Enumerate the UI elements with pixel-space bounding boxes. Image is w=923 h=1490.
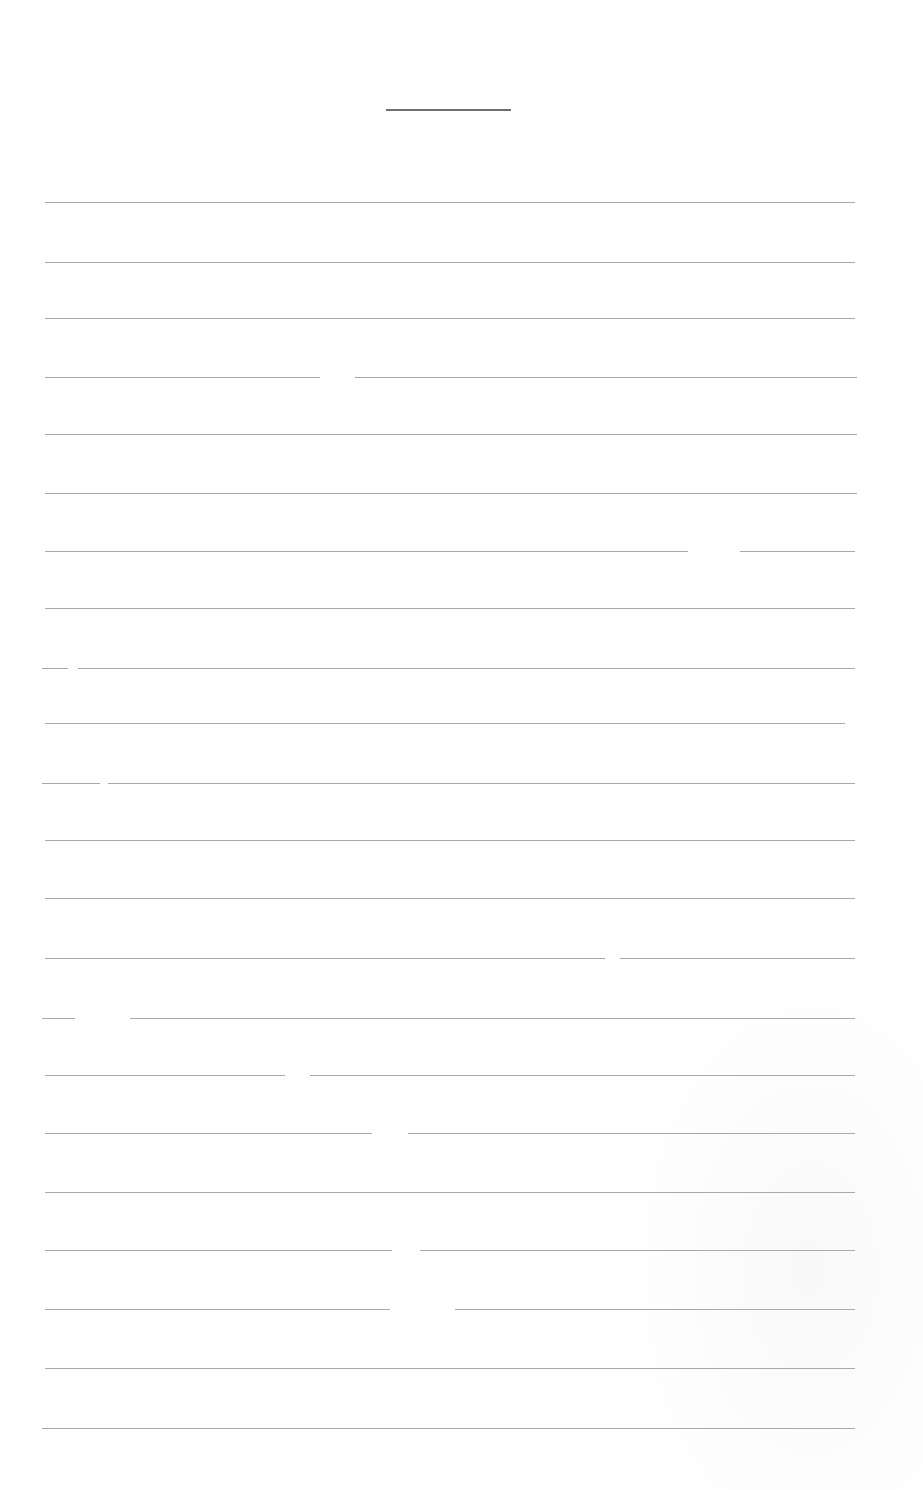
form-line-5-segment-1 [45, 434, 857, 435]
title-underline [386, 109, 511, 111]
form-line-19-segment-2 [420, 1250, 855, 1251]
form-line-6-segment-1 [45, 493, 857, 494]
form-line-4-segment-1 [45, 377, 320, 378]
form-line-15-segment-1 [42, 1018, 75, 1019]
form-line-7-segment-1 [45, 551, 688, 552]
form-line-19-segment-1 [45, 1250, 392, 1251]
lined-form-page [0, 0, 923, 1490]
faint-watermark [640, 1000, 923, 1490]
form-line-2-segment-1 [45, 262, 855, 263]
form-line-9-segment-2 [78, 668, 855, 669]
form-line-13-segment-1 [45, 898, 855, 899]
form-line-11-segment-2 [108, 783, 855, 784]
form-line-3-segment-1 [45, 318, 855, 319]
form-line-14-segment-1 [45, 958, 605, 959]
form-line-4-segment-2 [355, 377, 857, 378]
form-line-16-segment-2 [310, 1075, 855, 1076]
form-line-14-segment-2 [620, 958, 855, 959]
form-line-11-segment-1 [42, 783, 100, 784]
form-line-17-segment-2 [408, 1133, 855, 1134]
form-line-7-segment-2 [740, 551, 855, 552]
form-line-22-segment-1 [42, 1428, 855, 1429]
form-line-20-segment-2 [455, 1309, 855, 1310]
form-line-20-segment-1 [45, 1309, 390, 1310]
form-line-15-segment-2 [130, 1018, 855, 1019]
form-line-1-segment-1 [45, 202, 855, 203]
form-line-17-segment-1 [45, 1133, 372, 1134]
form-line-9-segment-1 [42, 668, 68, 669]
form-line-8-segment-1 [45, 608, 855, 609]
form-line-12-segment-1 [45, 840, 855, 841]
form-line-18-segment-1 [45, 1192, 855, 1193]
form-line-21-segment-1 [45, 1368, 855, 1369]
form-line-16-segment-1 [45, 1075, 285, 1076]
form-line-10-segment-1 [45, 723, 845, 724]
